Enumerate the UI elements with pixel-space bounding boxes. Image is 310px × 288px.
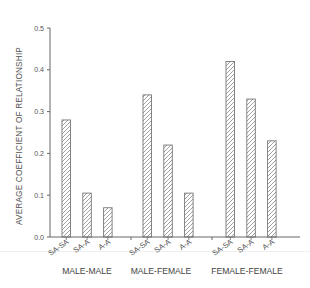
y-tick-label: 0.0 bbox=[34, 234, 44, 241]
group-labels: MALE-MALEMALE-FEMALEFEMALE-FEMALE bbox=[62, 266, 283, 276]
bar-male-male-sa-sa bbox=[62, 120, 71, 237]
bar-male-male-a-a bbox=[104, 208, 113, 237]
category-label: SA-SA bbox=[47, 237, 72, 258]
y-axis: 0.00.10.20.30.40.5 bbox=[34, 25, 50, 241]
bar-chart: 0.00.10.20.30.40.5 AVERAGE COEFFICIENT O… bbox=[0, 0, 310, 288]
category-label: SA-SA bbox=[211, 237, 236, 258]
group-label: FEMALE-FEMALE bbox=[211, 266, 283, 276]
group-label: MALE-FEMALE bbox=[131, 266, 192, 276]
y-axis-label: AVERAGE COEFFICIENT OF RELATIONSHIP bbox=[15, 47, 24, 225]
bar-female-female-sa-sa bbox=[226, 61, 235, 237]
category-labels: SA-SASA-AA-ASA-SASA-AA-ASA-SASA-AA-A bbox=[47, 237, 277, 258]
category-label: A-A bbox=[177, 237, 193, 252]
bar-female-female-a-a bbox=[268, 141, 277, 237]
category-label: SA-A bbox=[236, 237, 256, 255]
bar-male-female-sa-sa bbox=[143, 95, 152, 237]
category-label: SA-A bbox=[72, 237, 92, 255]
bar-female-female-sa-a bbox=[247, 99, 256, 237]
bars bbox=[62, 61, 276, 237]
y-tick-label: 0.4 bbox=[34, 66, 44, 73]
y-tick-label: 0.3 bbox=[34, 108, 44, 115]
y-tick-label: 0.5 bbox=[34, 25, 44, 32]
y-tick-label: 0.2 bbox=[34, 150, 44, 157]
y-axis-title: AVERAGE COEFFICIENT OF RELATIONSHIP bbox=[15, 47, 24, 225]
category-label: A-A bbox=[260, 237, 276, 252]
category-label: SA-A bbox=[153, 237, 173, 255]
bar-male-male-sa-a bbox=[83, 193, 92, 237]
category-label: A-A bbox=[96, 237, 112, 252]
bar-male-female-a-a bbox=[185, 193, 194, 237]
group-label: MALE-MALE bbox=[62, 266, 112, 276]
y-tick-label: 0.1 bbox=[34, 192, 44, 199]
bar-male-female-sa-a bbox=[164, 145, 173, 237]
